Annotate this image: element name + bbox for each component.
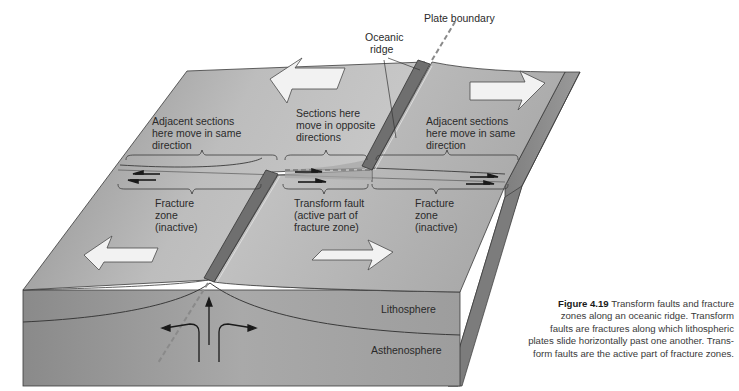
svg-text:here move in same: here move in same <box>426 127 515 139</box>
svg-text:move in opposite: move in opposite <box>296 119 376 131</box>
asthenosphere-label: Asthenosphere <box>371 344 442 356</box>
svg-text:Fracture: Fracture <box>415 197 454 209</box>
svg-text:Sections here: Sections here <box>296 107 360 119</box>
svg-text:fracture zone): fracture zone) <box>294 221 359 233</box>
caption-line-3: faults are fractures along which lithosp… <box>550 323 734 334</box>
caption-line-1: Transform faults and fracture <box>611 298 734 309</box>
svg-text:Oceanic: Oceanic <box>365 31 404 43</box>
svg-text:here move in same: here move in same <box>152 127 241 139</box>
caption-line-5: form faults are the active part of fract… <box>533 348 734 359</box>
svg-text:zone: zone <box>155 209 178 221</box>
svg-text:(active part of: (active part of <box>294 209 358 221</box>
svg-text:Adjacent sections: Adjacent sections <box>152 115 234 127</box>
block-front-face <box>23 280 460 386</box>
svg-text:Fracture: Fracture <box>155 197 194 209</box>
caption-line-2: zones along an oceanic ridge. Transform <box>561 310 734 321</box>
oceanic-ridge-label: Oceanic ridge <box>365 31 404 55</box>
svg-text:(inactive): (inactive) <box>415 221 458 233</box>
caption-line-4: plates slide horizontally past one anoth… <box>528 335 734 346</box>
transform-fault-label: Transform fault (active part of fracture… <box>294 197 364 233</box>
plate-boundary-line <box>432 22 455 60</box>
svg-text:(inactive): (inactive) <box>155 221 198 233</box>
svg-text:ridge: ridge <box>370 43 394 55</box>
figure-caption: Figure 4.19 Transform faults and fractur… <box>522 298 734 360</box>
svg-text:direction: direction <box>426 139 466 151</box>
figure-number: Figure 4.19 <box>558 298 609 309</box>
svg-text:direction: direction <box>152 139 192 151</box>
svg-text:Adjacent sections: Adjacent sections <box>426 115 508 127</box>
svg-text:Transform fault: Transform fault <box>294 197 364 209</box>
svg-text:zone: zone <box>415 209 438 221</box>
plate-boundary-label: Plate boundary <box>424 12 495 24</box>
lithosphere-label: Lithosphere <box>381 303 436 315</box>
svg-text:directions: directions <box>296 131 341 143</box>
